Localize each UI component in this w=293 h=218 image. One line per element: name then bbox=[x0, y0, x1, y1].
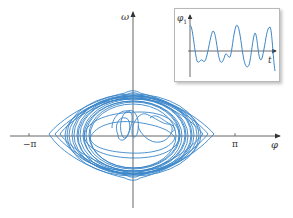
phase-trajectory bbox=[49, 91, 214, 181]
inset-phi-subscript: 1 bbox=[183, 18, 187, 25]
tick-label-pi: π bbox=[232, 140, 238, 149]
tick-label-minus-pi: −π bbox=[23, 140, 36, 149]
inset-oscillation-curve bbox=[190, 25, 275, 71]
inset-time-series-panel: φ1 t bbox=[174, 8, 280, 82]
inset-t-label: t bbox=[268, 56, 272, 65]
inset-phi1-label: φ1 bbox=[177, 14, 187, 25]
phi-axis-label: φ bbox=[271, 140, 278, 150]
omega-axis-label: ω bbox=[121, 12, 129, 22]
diagram-canvas: ω φ −π π φ1 t bbox=[0, 0, 293, 218]
inset-plot-svg bbox=[175, 9, 279, 81]
